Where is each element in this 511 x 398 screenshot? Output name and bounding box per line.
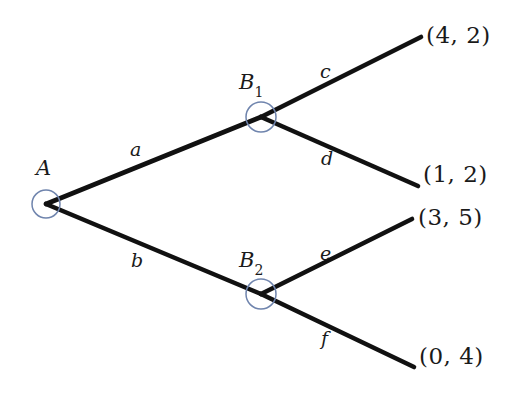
- tree-edge-f: [261, 294, 414, 367]
- payoff-label-t2: (1, 2): [423, 163, 488, 186]
- edge-label-b: b: [131, 251, 143, 270]
- payoff-label-t3: (3, 5): [418, 206, 483, 229]
- edge-label-a: a: [130, 140, 141, 159]
- edge-label-d: d: [321, 149, 333, 168]
- payoff-label-t1: (4, 2): [426, 24, 491, 47]
- node-label-B2: B2: [239, 250, 263, 274]
- nodes-group: [32, 102, 276, 309]
- edges-group: [46, 37, 421, 367]
- edge-label-e: e: [320, 244, 331, 263]
- tree-edge-e: [261, 219, 412, 294]
- tree-edge-c: [261, 37, 421, 117]
- node-label-text-B1: B: [239, 70, 254, 94]
- tree-edge-d: [261, 117, 418, 186]
- game-tree-diagram: AB1B2abcdef(4, 2)(1, 2)(3, 5)(0, 4): [0, 0, 511, 398]
- node-label-text-A: A: [36, 156, 51, 180]
- node-label-subscript-B1: 1: [254, 84, 263, 100]
- tree-edge-a: [46, 117, 261, 204]
- node-label-subscript-B2: 2: [254, 262, 263, 278]
- node-label-A: A: [36, 158, 51, 179]
- tree-edge-b: [46, 204, 261, 294]
- tree-svg-canvas: [0, 0, 511, 398]
- edge-label-c: c: [320, 62, 331, 81]
- node-label-B1: B1: [239, 72, 263, 96]
- edge-label-f: f: [321, 329, 328, 348]
- node-label-text-B2: B: [239, 248, 254, 272]
- payoff-label-t4: (0, 4): [419, 345, 484, 368]
